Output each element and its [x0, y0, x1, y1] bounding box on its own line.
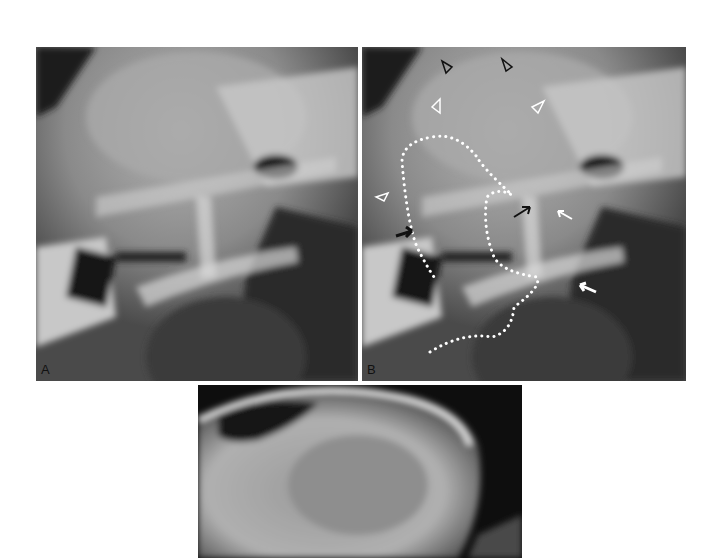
radiograph-panel-a: A: [36, 47, 358, 381]
xray-image-c: [198, 385, 522, 558]
radiograph-panel-c: [198, 385, 522, 558]
xray-image-a: [36, 47, 358, 381]
panel-label-b: B: [367, 362, 376, 377]
radiograph-panel-b: B: [362, 47, 686, 381]
xray-image-b: [362, 47, 686, 381]
panel-label-a: A: [41, 362, 50, 377]
